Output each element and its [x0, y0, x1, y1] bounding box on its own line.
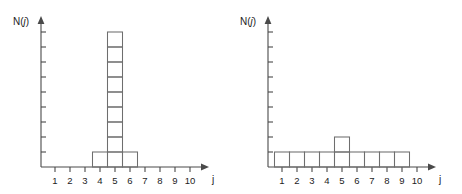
x-tick-label: 4 — [324, 175, 329, 186]
x-tick-label: 9 — [399, 175, 404, 186]
y-axis-label: N(j) — [13, 16, 29, 27]
x-axis-ticks — [282, 167, 417, 172]
x-tick-label: 8 — [384, 175, 389, 186]
x-axis-ticks — [55, 167, 190, 172]
bar-j5-cell-2 — [335, 137, 350, 152]
bar-j5-cell-8 — [108, 47, 123, 62]
x-tick-label: 4 — [97, 175, 102, 186]
x-tick-label: 5 — [339, 175, 344, 186]
bar-j5-cell-6 — [108, 77, 123, 92]
x-tick-label: 10 — [185, 175, 196, 186]
x-axis-label: j — [211, 174, 214, 185]
x-axis-label: j — [438, 174, 441, 185]
bar-j3 — [305, 152, 320, 167]
two-histogram-figure: 1 2 3 4 5 6 7 8 9 10 N(j) j — [0, 0, 462, 194]
x-tick-label: 6 — [354, 175, 359, 186]
y-axis-ticks — [268, 32, 273, 152]
x-tick-label: 3 — [309, 175, 314, 186]
bar-j5-cell-7 — [108, 62, 123, 77]
x-tick-label: 3 — [82, 175, 87, 186]
bar-j5-cell-9 — [108, 32, 123, 47]
histogram-bars — [275, 137, 410, 167]
histogram-bars — [93, 32, 138, 167]
bar-j4 — [93, 152, 108, 167]
y-axis-arrowhead — [38, 16, 45, 24]
bar-j5-cell-1 — [108, 152, 123, 167]
bar-j5-cell-4 — [108, 107, 123, 122]
y-axis-ticks — [41, 32, 46, 152]
x-tick-label: 5 — [112, 175, 117, 186]
bar-j5-cell-2 — [108, 137, 123, 152]
bar-j9 — [395, 152, 410, 167]
bar-j5-cell-1 — [335, 152, 350, 167]
bar-j5-cell-3 — [108, 122, 123, 137]
x-tick-label: 7 — [369, 175, 374, 186]
x-tick-label: 2 — [294, 175, 299, 186]
bar-j6 — [350, 152, 365, 167]
x-tick-label: 2 — [67, 175, 72, 186]
x-tick-label: 1 — [52, 175, 57, 186]
x-tick-label: 9 — [172, 175, 177, 186]
bar-j4 — [320, 152, 335, 167]
bar-j5-cell-5 — [108, 92, 123, 107]
y-axis-label: N(j) — [240, 16, 256, 27]
bar-j7 — [365, 152, 380, 167]
bar-j6 — [123, 152, 138, 167]
histogram-svg-right: 1 2 3 4 5 6 7 8 9 10 N(j) j — [231, 0, 462, 194]
x-tick-label: 10 — [412, 175, 423, 186]
x-axis-arrowhead — [201, 164, 209, 171]
histogram-panel-left: 1 2 3 4 5 6 7 8 9 10 N(j) j — [0, 0, 231, 194]
x-tick-label: 6 — [127, 175, 132, 186]
y-axis-arrowhead — [265, 16, 272, 24]
x-axis-arrowhead — [428, 164, 436, 171]
histogram-panel-right: 1 2 3 4 5 6 7 8 9 10 N(j) j — [231, 0, 462, 194]
x-tick-label: 7 — [142, 175, 147, 186]
x-tick-label: 1 — [279, 175, 284, 186]
bar-j8 — [380, 152, 395, 167]
x-tick-label: 8 — [157, 175, 162, 186]
bar-j2 — [290, 152, 305, 167]
bar-j1 — [275, 152, 290, 167]
histogram-svg-left: 1 2 3 4 5 6 7 8 9 10 N(j) j — [0, 0, 231, 194]
